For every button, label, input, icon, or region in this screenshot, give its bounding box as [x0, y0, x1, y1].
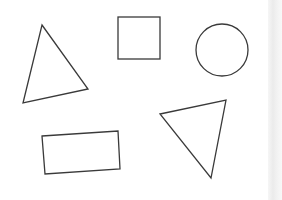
circle — [196, 24, 248, 76]
triangle-right — [160, 100, 226, 178]
triangle-left — [23, 25, 88, 103]
page-edge-strip — [268, 0, 282, 200]
rectangle-rotated — [42, 131, 120, 174]
square — [118, 17, 160, 59]
shapes-canvas — [0, 0, 282, 200]
